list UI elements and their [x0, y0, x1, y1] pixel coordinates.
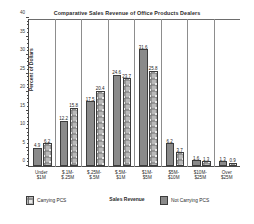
bar-value-label: 4.9 [34, 143, 40, 148]
legend-swatch-not-carrying-icon [160, 196, 168, 205]
y-axis-minor-tick [27, 65, 29, 66]
y-axis-minor-tick [27, 80, 29, 81]
bar-not-carrying: 4.9 [33, 148, 42, 166]
category-separator [187, 19, 188, 167]
y-axis-minor-tick [27, 47, 29, 48]
y-axis-minor-tick [27, 98, 29, 99]
y-axis-major-tick [26, 73, 29, 74]
y-axis-minor-tick [27, 121, 29, 122]
y-axis-tick-label: 5 [22, 141, 25, 146]
y-axis-major-tick [26, 54, 29, 55]
bar-not-carrying: 17.5 [86, 101, 95, 166]
x-axis-category-label: $.5M-$1M [108, 170, 135, 181]
category-separator [108, 19, 109, 167]
bar-not-carrying: 31.6 [139, 49, 148, 166]
x-axis-category-label: $.1M-$.25M [55, 170, 82, 181]
bar-value-label: 15.8 [69, 103, 78, 108]
bar-value-label: 1.3 [203, 157, 209, 162]
y-axis-tick-label: 40 [20, 11, 25, 16]
y-axis-minor-tick [27, 135, 29, 136]
y-axis-major-tick [26, 128, 29, 129]
chart-title: Comparative Sales Revenue of Office Prod… [0, 10, 254, 16]
y-axis-major-tick [26, 110, 29, 111]
bar-value-label: 0.9 [230, 158, 236, 163]
category-separator [134, 19, 135, 167]
bar-pattern-overlay [203, 162, 210, 165]
y-axis-minor-tick [27, 139, 29, 140]
y-axis-minor-tick [27, 106, 29, 107]
y-axis-tick-label: 30 [20, 48, 25, 53]
y-axis-minor-tick [27, 58, 29, 59]
y-axis-minor-tick [27, 24, 29, 25]
x-axis-category-label: $5M-$10M [161, 170, 188, 181]
y-axis-tick-label: 10 [20, 122, 25, 127]
y-axis-tick-label: 25 [20, 67, 25, 72]
bar-value-label: 25.8 [149, 66, 158, 71]
bar-not-carrying: 1.6 [192, 160, 201, 166]
chart-container: Comparative Sales Revenue of Office Prod… [0, 0, 254, 224]
y-axis-minor-tick [27, 84, 29, 85]
bar-not-carrying: 24.6 [113, 75, 122, 166]
x-axis-category-label: $10M-$25M [187, 170, 214, 181]
x-axis-category-label: $1M-$5M [134, 170, 161, 181]
bar-carrying: 25.8 [149, 71, 158, 166]
bar-carrying: 1.3 [202, 161, 211, 166]
bar-value-label: 1.3 [220, 157, 226, 162]
y-axis-minor-tick [27, 43, 29, 44]
bar-value-label: 23.7 [122, 74, 131, 79]
y-axis-minor-tick [27, 132, 29, 133]
bar-pattern-overlay [44, 144, 51, 165]
y-axis-major-tick [26, 91, 29, 92]
y-axis-minor-tick [27, 95, 29, 96]
x-axis-category-label: Under$1M [28, 170, 55, 181]
x-axis-category-label: Over$25M [214, 170, 241, 181]
bar-carrying: 0.9 [229, 163, 238, 166]
x-axis-category-label: $.25M-$.5M [81, 170, 108, 181]
bar-not-carrying: 1.3 [219, 161, 228, 166]
y-axis-major-tick [26, 165, 29, 166]
category-separator [55, 19, 56, 167]
legend-item-not-carrying-pcs: Not Carrying PCS [160, 196, 209, 205]
bar-value-label: 6.2 [167, 139, 173, 144]
bar-carrying: 6.2 [43, 143, 52, 166]
bar-value-label: 20.4 [96, 86, 105, 91]
y-axis-minor-tick [27, 28, 29, 29]
y-axis-major-tick [26, 147, 29, 148]
bar-not-carrying: 6.2 [166, 143, 175, 166]
y-axis-tick-label: 35 [20, 30, 25, 35]
bar-value-label: 17.5 [86, 97, 95, 102]
bar-pattern-overlay [71, 109, 78, 165]
y-axis-minor-tick [27, 113, 29, 114]
legend-swatch-carrying-icon [26, 196, 34, 205]
bar-not-carrying: 12.2 [60, 121, 69, 166]
bar-value-label: 24.6 [112, 70, 121, 75]
y-axis-minor-tick [27, 102, 29, 103]
y-axis-tick-label: 20 [20, 85, 25, 90]
y-axis-tick-label: 15 [20, 104, 25, 109]
y-axis-minor-tick [27, 32, 29, 33]
y-axis-minor-tick [27, 161, 29, 162]
bar-pattern-overlay [150, 72, 157, 165]
y-axis-minor-tick [27, 76, 29, 77]
y-axis-major-tick [26, 36, 29, 37]
bar-carrying: 3.7 [176, 152, 185, 166]
bar-carrying: 20.4 [96, 91, 105, 166]
category-separator [161, 19, 162, 167]
y-axis-minor-tick [27, 39, 29, 40]
y-axis-minor-tick [27, 143, 29, 144]
bar-pattern-overlay [230, 164, 237, 165]
y-axis-minor-tick [27, 150, 29, 151]
y-axis-tick-label: 0 [22, 159, 25, 164]
y-axis-minor-tick [27, 61, 29, 62]
bar-value-label: 31.6 [139, 45, 148, 50]
bar-value-label: 3.7 [177, 148, 183, 153]
bar-carrying: 23.7 [123, 78, 132, 166]
legend-item-carrying-pcs: Carrying PCS [26, 196, 66, 205]
bar-value-label: 12.2 [59, 116, 68, 121]
bar-value-label: 1.6 [193, 156, 199, 161]
bar-pattern-overlay [97, 92, 104, 165]
y-axis-major-tick [26, 17, 29, 18]
bar-pattern-overlay [124, 79, 131, 165]
y-axis-minor-tick [27, 21, 29, 22]
y-axis-minor-tick [27, 117, 29, 118]
